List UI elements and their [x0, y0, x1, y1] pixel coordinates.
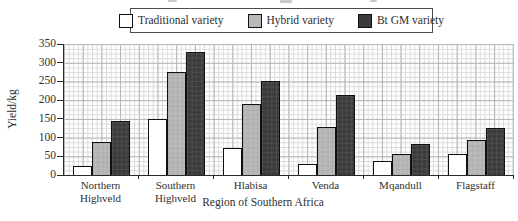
bar-bt-gm-variety-southern-highveld — [186, 52, 205, 176]
legend-swatch-traditional-icon — [119, 14, 133, 28]
bar-group-northern-highveld — [64, 44, 139, 175]
y-tick-label: 250 — [20, 75, 56, 87]
bar-traditional-variety-southern-highveld — [148, 119, 167, 175]
plot-area — [63, 44, 514, 176]
x-tick-mark — [513, 175, 514, 179]
bar-hybrid-variety-flagstaff — [467, 140, 486, 175]
bar-traditional-variety-hlabisa — [223, 148, 242, 175]
legend-item-traditional-variety: Traditional variety — [119, 14, 224, 28]
bar-bt-gm-variety-venda — [336, 95, 355, 175]
y-tick-label: 50 — [20, 150, 56, 162]
bar-hybrid-variety-venda — [317, 127, 336, 175]
cropped-text-remnant — [280, 0, 292, 3]
legend-label: Bt GM variety — [377, 15, 444, 27]
y-tick-mark — [57, 156, 64, 157]
y-tick-mark — [57, 100, 64, 101]
y-tick-mark — [57, 62, 64, 63]
y-tick-mark — [57, 175, 64, 176]
y-tick-label: 350 — [20, 38, 56, 50]
y-tick-mark — [57, 118, 64, 119]
chart-legend: Traditional variety Hybrid variety Bt GM… — [130, 8, 433, 33]
bar-traditional-variety-northern-highveld — [73, 166, 92, 175]
bar-hybrid-variety-southern-highveld — [167, 72, 186, 175]
y-tick-label: 200 — [20, 94, 56, 106]
legend-swatch-bt-gm-icon — [358, 14, 372, 28]
y-tick-mark — [57, 81, 64, 82]
bar-bt-gm-variety-flagstaff — [486, 128, 505, 175]
y-tick-label: 300 — [20, 57, 56, 69]
cropped-text-remnant — [370, 0, 377, 2]
bar-bt-gm-variety-mqandull — [411, 144, 430, 175]
legend-label: Hybrid variety — [267, 15, 334, 27]
x-axis-title: Region of Southern Africa — [63, 196, 463, 208]
legend-item-hybrid-variety: Hybrid variety — [248, 14, 334, 28]
y-tick-mark — [57, 137, 64, 138]
bar-traditional-variety-mqandull — [373, 161, 392, 175]
legend-item-bt-gm-variety: Bt GM variety — [358, 14, 444, 28]
y-tick-label: 100 — [20, 132, 56, 144]
bar-group-venda — [289, 44, 364, 175]
bar-hybrid-variety-hlabisa — [242, 104, 261, 175]
bar-group-flagstaff — [439, 44, 514, 175]
bar-bt-gm-variety-hlabisa — [261, 81, 280, 175]
bar-hybrid-variety-mqandull — [392, 154, 411, 175]
bar-hybrid-variety-northern-highveld — [92, 142, 111, 175]
bar-group-southern-highveld — [139, 44, 214, 175]
y-tick-label: 0 — [20, 169, 56, 181]
y-tick-mark — [57, 44, 64, 45]
bar-traditional-variety-venda — [298, 164, 317, 175]
legend-label: Traditional variety — [138, 15, 224, 27]
chart-canvas: Traditional variety Hybrid variety Bt GM… — [0, 0, 518, 221]
legend-swatch-hybrid-icon — [248, 14, 262, 28]
y-axis-title: Yield/kg — [6, 89, 18, 129]
bar-bt-gm-variety-northern-highveld — [111, 121, 130, 175]
cropped-text-remnant — [168, 0, 177, 2]
bar-group-hlabisa — [214, 44, 289, 175]
bar-traditional-variety-flagstaff — [448, 154, 467, 175]
bar-group-mqandull — [364, 44, 439, 175]
y-tick-label: 150 — [20, 113, 56, 125]
